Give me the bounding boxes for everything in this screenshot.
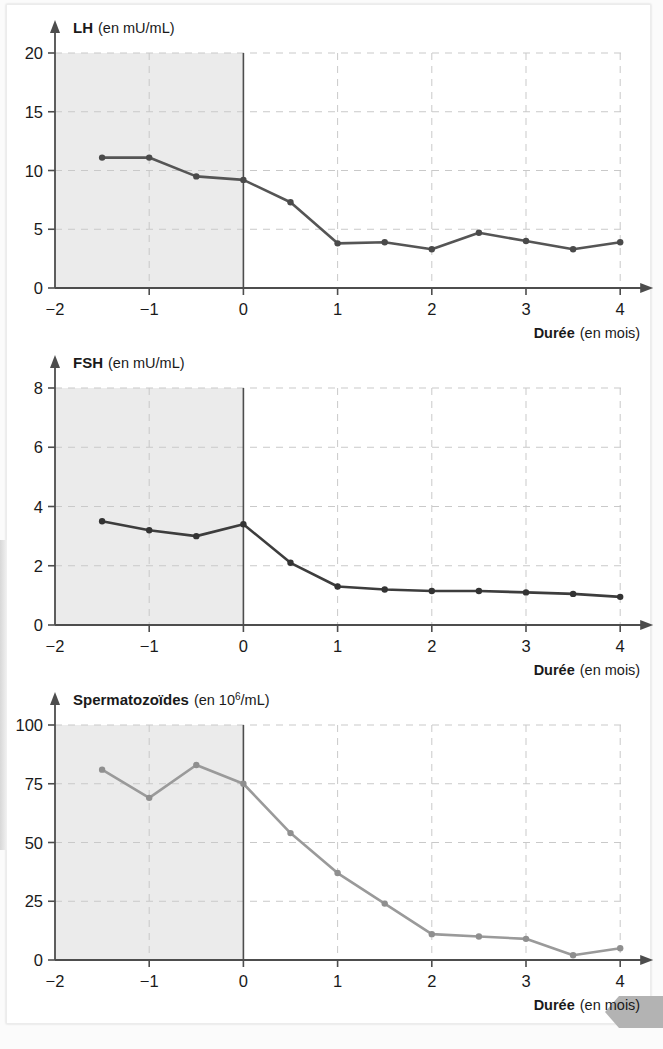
x-tick-label-fsh-2: 0 xyxy=(239,637,248,655)
y-tick-label-fsh-1: 2 xyxy=(34,557,43,575)
data-point-fsh-2 xyxy=(193,533,199,539)
x-tick-label-spz-2: 0 xyxy=(239,972,248,990)
y-tick-label-lh-3: 15 xyxy=(25,103,43,121)
data-point-lh-6 xyxy=(382,239,388,245)
x-axis-arrow-icon-fsh xyxy=(640,620,653,630)
data-point-fsh-0 xyxy=(99,518,105,524)
x-tick-label-lh-2: 0 xyxy=(239,300,248,318)
data-point-fsh-7 xyxy=(429,588,435,594)
data-point-lh-4 xyxy=(287,199,293,205)
data-point-fsh-3 xyxy=(240,521,246,527)
x-tick-label-fsh-4: 2 xyxy=(427,637,436,655)
x-tick-label-spz-0: −2 xyxy=(46,972,65,990)
chart-title-bold-spz: Spermatozoïdes xyxy=(73,691,189,708)
data-point-spz-6 xyxy=(382,900,388,906)
x-axis-title-fsh: Durée(en mois) xyxy=(534,662,641,678)
chart-title-bold-fsh: FSH xyxy=(73,354,103,371)
x-axis-title-bold-lh: Durée xyxy=(534,325,575,341)
data-point-spz-2 xyxy=(193,762,199,768)
data-point-lh-3 xyxy=(240,177,246,183)
data-point-fsh-10 xyxy=(570,591,576,597)
data-point-lh-2 xyxy=(193,173,199,179)
y-axis-arrow-icon-lh xyxy=(50,20,60,33)
y-tick-label-lh-0: 0 xyxy=(34,279,43,297)
y-tick-label-spz-4: 100 xyxy=(15,716,43,734)
chart-title-unit-tail-spz: /mL) xyxy=(241,692,270,708)
data-point-spz-9 xyxy=(523,936,529,942)
data-point-lh-0 xyxy=(99,154,105,160)
data-point-fsh-6 xyxy=(382,586,388,592)
x-axis-title-lh: Durée(en mois) xyxy=(534,325,641,341)
data-point-spz-3 xyxy=(240,781,246,787)
y-tick-label-fsh-3: 6 xyxy=(34,438,43,456)
x-tick-label-lh-4: 2 xyxy=(427,300,436,318)
x-tick-label-fsh-3: 1 xyxy=(333,637,342,655)
x-tick-label-fsh-6: 4 xyxy=(616,637,625,655)
y-axis-arrow-icon-spz xyxy=(50,692,60,705)
data-point-spz-4 xyxy=(287,830,293,836)
x-axis-title-bold-spz: Durée xyxy=(534,997,575,1013)
y-axis-arrow-icon-fsh xyxy=(50,355,60,368)
chart-canvas-lh: 05101520−2−101234LH(en mU/mL)Durée(en mo… xyxy=(0,0,663,350)
x-axis-arrow-icon-spz xyxy=(640,955,653,965)
data-point-spz-0 xyxy=(99,766,105,772)
x-tick-label-fsh-1: −1 xyxy=(140,637,159,655)
data-point-lh-11 xyxy=(617,239,623,245)
chart-lh: 05101520−2−101234LH(en mU/mL)Durée(en mo… xyxy=(0,0,663,350)
x-tick-label-spz-6: 4 xyxy=(616,972,625,990)
x-axis-title-unit-spz: (en mois) xyxy=(580,997,640,1013)
data-point-spz-7 xyxy=(429,931,435,937)
data-point-fsh-8 xyxy=(476,588,482,594)
x-axis-title-bold-fsh: Durée xyxy=(534,662,575,678)
y-tick-label-spz-1: 25 xyxy=(25,892,43,910)
y-tick-label-lh-1: 5 xyxy=(34,220,43,238)
data-point-lh-9 xyxy=(523,238,529,244)
chart-spz: 0255075100−2−101234Spermatozoïdes(en 106… xyxy=(0,680,663,1040)
y-tick-label-spz-3: 75 xyxy=(25,775,43,793)
chart-title-unit-base-spz: (en 10 xyxy=(194,692,235,708)
y-tick-label-spz-2: 50 xyxy=(25,834,43,852)
chart-fsh: 02468−2−101234FSH(en mU/mL)Durée(en mois… xyxy=(0,345,663,685)
data-point-fsh-4 xyxy=(287,560,293,566)
x-axis-title-spz: Durée(en mois) xyxy=(534,997,641,1013)
y-tick-label-fsh-4: 8 xyxy=(34,379,43,397)
y-tick-label-fsh-2: 4 xyxy=(34,498,43,516)
data-point-lh-8 xyxy=(476,230,482,236)
data-point-lh-1 xyxy=(146,154,152,160)
x-axis-arrow-icon-lh xyxy=(640,283,653,293)
data-point-fsh-11 xyxy=(617,594,623,600)
chart-canvas-fsh: 02468−2−101234FSH(en mU/mL)Durée(en mois… xyxy=(0,345,663,685)
x-axis-title-unit-lh: (en mois) xyxy=(580,325,640,341)
x-tick-label-spz-4: 2 xyxy=(427,972,436,990)
data-point-lh-10 xyxy=(570,246,576,252)
chart-title-unit-fsh: (en mU/mL) xyxy=(108,355,185,371)
y-tick-label-lh-2: 10 xyxy=(25,162,43,180)
x-tick-label-lh-6: 4 xyxy=(616,300,625,318)
chart-title-fsh: FSH(en mU/mL) xyxy=(73,354,185,371)
y-tick-label-spz-0: 0 xyxy=(34,951,43,969)
x-tick-label-fsh-0: −2 xyxy=(46,637,65,655)
data-point-lh-7 xyxy=(429,246,435,252)
chart-title-spz: Spermatozoïdes(en 106/mL) xyxy=(73,691,270,708)
x-tick-label-fsh-5: 3 xyxy=(521,637,530,655)
x-axis-title-unit-fsh: (en mois) xyxy=(580,662,640,678)
data-point-fsh-9 xyxy=(523,589,529,595)
x-tick-label-spz-5: 3 xyxy=(521,972,530,990)
chart-title-unit-lh: (en mU/mL) xyxy=(98,20,175,36)
x-tick-label-spz-1: −1 xyxy=(140,972,159,990)
x-tick-label-spz-3: 1 xyxy=(333,972,342,990)
y-tick-label-fsh-0: 0 xyxy=(34,616,43,634)
y-tick-label-lh-4: 20 xyxy=(25,44,43,62)
data-point-lh-5 xyxy=(334,240,340,246)
chart-title-bold-lh: LH xyxy=(73,19,93,36)
x-tick-label-lh-0: −2 xyxy=(46,300,65,318)
data-point-spz-10 xyxy=(570,952,576,958)
chart-canvas-spz: 0255075100−2−101234Spermatozoïdes(en 106… xyxy=(0,680,663,1040)
x-tick-label-lh-1: −1 xyxy=(140,300,159,318)
x-tick-label-lh-5: 3 xyxy=(521,300,530,318)
data-point-spz-5 xyxy=(334,870,340,876)
data-point-spz-8 xyxy=(476,933,482,939)
x-tick-label-lh-3: 1 xyxy=(333,300,342,318)
data-point-spz-1 xyxy=(146,795,152,801)
data-point-spz-11 xyxy=(617,945,623,951)
